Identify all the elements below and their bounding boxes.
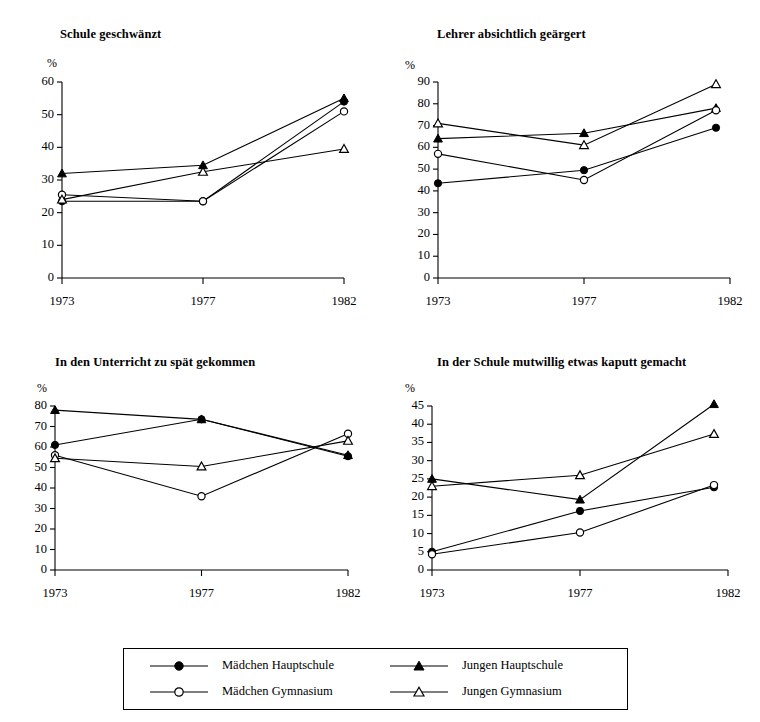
x-axis-tick-label: 1973	[408, 294, 468, 309]
y-axis-tick-label: 10	[16, 237, 54, 252]
y-axis-tick-label: 30	[16, 172, 54, 187]
plot-area: 051015202530354045197319771982	[380, 392, 760, 620]
chart-title: Schule geschwänzt	[60, 27, 161, 42]
y-axis-tick-label: 0	[386, 562, 424, 577]
y-axis-tick-label: 90	[392, 74, 430, 89]
x-axis-tick-label: 1977	[173, 294, 233, 309]
x-axis-tick-label: 1973	[32, 294, 92, 309]
chart-panel-mutwillig-kaputt-gemacht: In der Schule mutwillig etwas kaputt gem…	[380, 340, 760, 630]
y-axis-tick-label: 25	[386, 471, 424, 486]
legend-label: Jungen Hauptschule	[462, 658, 563, 673]
y-axis-tick-label: 50	[9, 460, 47, 475]
y-axis-tick-label: 30	[392, 205, 430, 220]
y-axis-tick-label: 60	[9, 439, 47, 454]
chart-panel-lehrer-geaergert: Lehrer absichtlich geärgert % 0102030405…	[380, 0, 760, 340]
x-axis-tick-label: 1982	[700, 294, 760, 309]
legend-label: Mädchen Gymnasium	[222, 684, 333, 699]
legend-label: Mädchen Hauptschule	[222, 658, 334, 673]
y-axis-tick-label: 45	[386, 398, 424, 413]
y-axis-tick-label: 20	[392, 226, 430, 241]
x-axis-tick-label: 1973	[402, 586, 462, 601]
legend-item-jungen-hauptschule: Jungen Hauptschule	[388, 658, 563, 673]
y-axis-tick-label: 10	[386, 526, 424, 541]
y-axis-tick-label: 80	[392, 96, 430, 111]
y-axis-tick-label: 40	[9, 480, 47, 495]
y-axis-tick-label: 10	[392, 248, 430, 263]
chart-panel-zu-spaet-gekommen: In den Unterricht zu spät gekommen % 010…	[0, 340, 380, 630]
filled-triangle-icon	[388, 659, 450, 673]
y-axis-tick-label: 60	[16, 74, 54, 89]
y-axis-tick-label: 0	[9, 562, 47, 577]
plot-area: 0102030405060197319771982	[0, 68, 380, 330]
open-circle-icon	[148, 685, 210, 699]
legend: Mädchen Hauptschule Jungen Hauptschule M…	[123, 648, 628, 710]
y-axis-tick-label: 70	[9, 419, 47, 434]
y-axis-tick-label: 20	[386, 489, 424, 504]
y-axis-tick-label: 70	[392, 118, 430, 133]
x-axis-tick-label: 1982	[314, 294, 374, 309]
plot-area: 0102030405060708090197319771982	[380, 68, 760, 330]
chart-panel-schule-geschwaenzt: Schule geschwänzt % 01020304050601973197…	[0, 0, 380, 340]
x-axis-tick-label: 1977	[550, 586, 610, 601]
y-axis-tick-label: 30	[9, 501, 47, 516]
y-axis-tick-label: 60	[392, 139, 430, 154]
y-axis-tick-label: 10	[9, 542, 47, 557]
x-axis-tick-label: 1982	[698, 586, 758, 601]
x-axis-tick-label: 1973	[25, 586, 85, 601]
legend-item-maedchen-gymnasium: Mädchen Gymnasium	[148, 684, 333, 699]
y-axis-tick-label: 5	[386, 544, 424, 559]
y-axis-tick-label: 35	[386, 434, 424, 449]
plot-area: 01020304050607080197319771982	[0, 392, 380, 620]
legend-label: Jungen Gymnasium	[462, 684, 562, 699]
x-axis-tick-label: 1982	[318, 586, 378, 601]
filled-circle-icon	[148, 659, 210, 673]
y-axis-tick-label: 0	[392, 270, 430, 285]
y-axis-tick-label: 0	[16, 270, 54, 285]
legend-item-jungen-gymnasium: Jungen Gymnasium	[388, 684, 562, 699]
open-triangle-icon	[388, 685, 450, 699]
y-axis-tick-label: 40	[16, 139, 54, 154]
chart-title: In den Unterricht zu spät gekommen	[55, 355, 255, 370]
y-axis-tick-label: 30	[386, 453, 424, 468]
y-axis-tick-label: 40	[386, 416, 424, 431]
y-axis-tick-label: 20	[16, 205, 54, 220]
figure-page: Schule geschwänzt % 01020304050601973197…	[0, 0, 760, 722]
y-axis-tick-label: 80	[9, 398, 47, 413]
x-axis-tick-label: 1977	[172, 586, 232, 601]
y-axis-tick-label: 50	[392, 161, 430, 176]
chart-title: In der Schule mutwillig etwas kaputt gem…	[437, 355, 686, 370]
y-axis-tick-label: 50	[16, 107, 54, 122]
chart-title: Lehrer absichtlich geärgert	[437, 27, 586, 42]
legend-item-maedchen-hauptschule: Mädchen Hauptschule	[148, 658, 334, 673]
y-axis-tick-label: 15	[386, 507, 424, 522]
y-axis-tick-label: 20	[9, 521, 47, 536]
x-axis-tick-label: 1977	[554, 294, 614, 309]
y-axis-tick-label: 40	[392, 183, 430, 198]
